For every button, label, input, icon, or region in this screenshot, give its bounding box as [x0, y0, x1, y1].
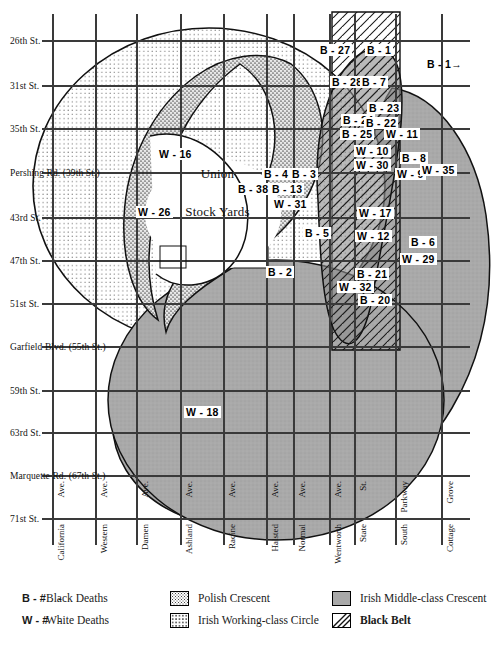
death-count-label: W - 35	[420, 164, 457, 176]
street-label-vertical-name: Halsted	[270, 524, 280, 552]
street-label-horizontal: Marquette Rd. (67th St.)	[10, 471, 106, 481]
legend-item-label: Black Belt	[360, 614, 411, 626]
street-label-vertical-suffix: Ave.	[297, 481, 307, 498]
street-label-vertical-name: Racine	[227, 524, 237, 549]
legend-item-label: Irish Middle-class Crescent	[360, 592, 486, 604]
stockyards-line-2: Stock Yards	[170, 204, 265, 220]
street-label-vertical-name: Western	[99, 524, 109, 553]
legend-swatch-irish-working	[170, 613, 189, 628]
death-count-label: B - 27	[318, 44, 352, 56]
street-label-vertical-name: Normal	[297, 524, 307, 552]
death-count-label: W - 29	[400, 253, 437, 265]
death-count-label: B - 7	[360, 76, 388, 88]
death-count-label: B - 6	[409, 236, 437, 248]
legend-item-label: Black Deaths	[46, 592, 108, 604]
stockyards-line-1: Union	[170, 166, 265, 182]
death-count-label: W - 11	[384, 128, 420, 140]
legend-swatch-black-belt	[332, 613, 351, 628]
street-label-vertical-suffix: St.	[358, 481, 368, 491]
street-label-vertical-suffix: Ave.	[227, 481, 237, 498]
street-label-vertical-name: Damen	[140, 524, 150, 550]
map-canvas	[0, 0, 504, 650]
street-label-horizontal: Garfield Blvd. (55th St.)	[10, 342, 106, 352]
death-count-label: B - 25	[340, 128, 374, 140]
street-label-horizontal: 35th St.	[10, 124, 40, 134]
street-label-vertical-suffix: Grove	[445, 481, 455, 504]
legend-swatch-polish	[170, 591, 189, 606]
death-count-label: B - 2	[266, 266, 294, 278]
street-label-horizontal: 63rd St.	[10, 428, 41, 438]
street-label-vertical-suffix: Parkway	[399, 481, 409, 513]
street-label-horizontal: 71st St.	[10, 514, 39, 524]
street-label-vertical-suffix: Ave.	[99, 481, 109, 498]
street-label-vertical-name: South	[399, 524, 409, 545]
death-count-label: W - 10	[354, 145, 391, 157]
death-count-label: B - 13	[270, 183, 304, 195]
street-label-vertical-name: California	[56, 524, 66, 561]
death-count-label: B - 8	[400, 152, 428, 164]
street-label-horizontal: 47th St.	[10, 256, 40, 266]
street-label-horizontal: 51st St.	[10, 299, 39, 309]
street-label-vertical-suffix: Ave.	[56, 481, 66, 498]
death-count-label: B - 3	[290, 168, 318, 180]
street-label-horizontal: Pershing Rd. (39th St.)	[10, 168, 100, 178]
death-count-label: B - 1	[365, 44, 393, 56]
death-count-label: W - 30	[354, 159, 391, 171]
death-count-label: W - 31	[272, 198, 309, 210]
legend-item-label: White Deaths	[46, 614, 109, 626]
street-label-vertical-name: State	[358, 524, 368, 542]
map-figure: 26th St.31st St.35th St.Pershing Rd. (39…	[0, 0, 504, 650]
street-label-vertical-suffix: Ave.	[333, 481, 343, 498]
death-count-label: W - 26	[136, 206, 173, 218]
street-label-vertical-name: Cottage	[445, 524, 455, 552]
union-stock-yards-label: Union Stock Yards	[170, 166, 265, 220]
street-label-vertical-name: Wentworth	[333, 524, 343, 564]
street-label-horizontal: 31st St.	[10, 81, 39, 91]
death-count-label: W - 17	[357, 207, 394, 219]
legend-item-label: Irish Working-class Circle	[198, 614, 319, 626]
street-label-vertical-name: Ashland	[184, 524, 194, 554]
death-count-label: W - 16	[157, 148, 194, 160]
legend-swatch-irish-middle	[332, 591, 351, 606]
street-label-horizontal: 26th St.	[10, 36, 40, 46]
death-count-label: W - 12	[355, 230, 392, 242]
death-count-label: B - 4	[262, 168, 290, 180]
street-label-vertical-suffix: Ave.	[140, 481, 150, 498]
death-count-label: B - 1→	[425, 58, 464, 70]
death-count-label: B - 20	[358, 294, 392, 306]
death-count-label: W - 32	[337, 281, 374, 293]
street-label-vertical-suffix: Ave.	[270, 481, 280, 498]
death-count-label: B - 5	[303, 227, 331, 239]
death-count-label: B - 21	[355, 268, 389, 280]
legend-key-symbol: W - #	[22, 614, 48, 626]
legend-item-label: Polish Crescent	[198, 592, 270, 604]
street-label-horizontal: 43rd St.	[10, 213, 41, 223]
street-label-vertical-suffix: Ave.	[184, 481, 194, 498]
death-count-label: W - 18	[184, 406, 221, 418]
death-count-label: B - 23	[367, 102, 401, 114]
street-label-horizontal: 59th St.	[10, 386, 40, 396]
map-legend: B - # - Black DeathsW - # - White Deaths…	[0, 578, 504, 650]
legend-key-symbol: B - #	[22, 592, 46, 604]
